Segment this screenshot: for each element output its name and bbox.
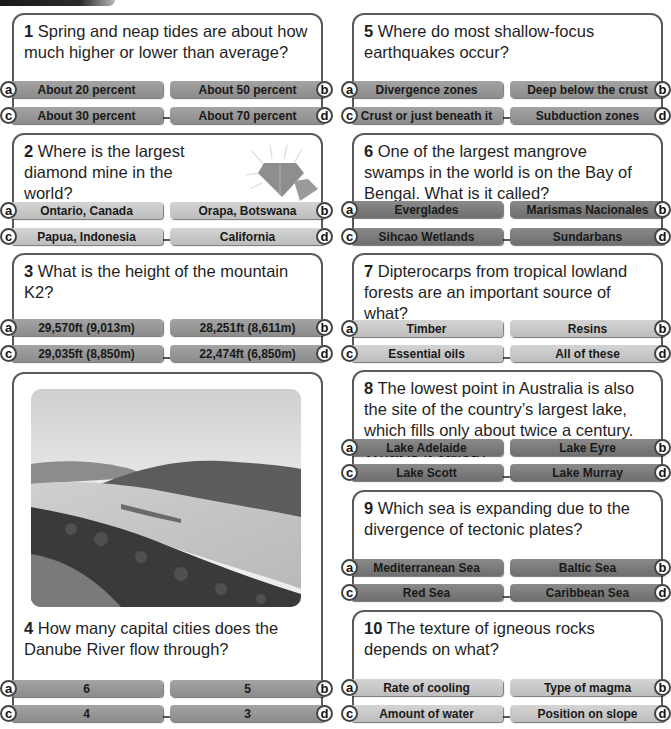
answer-option-2a[interactable]: Ontario, Canada: [10, 202, 163, 219]
letter-badge-b: b: [654, 201, 671, 218]
answer-option-9a[interactable]: Mediterranean Sea: [350, 559, 503, 576]
letter-badge-c: c: [341, 107, 358, 124]
question-number: 6: [364, 142, 373, 160]
answer-option-6b[interactable]: Marismas Nacionales: [510, 201, 665, 218]
letter-badge-b: b: [654, 679, 671, 696]
question-card-7: 7 Dipterocarps from tropical lowland for…: [352, 253, 663, 359]
letter-badge-d: d: [316, 107, 333, 124]
letter-badge-c: c: [0, 705, 17, 722]
letter-badge-c: c: [0, 345, 17, 362]
question-number: 7: [364, 262, 373, 280]
answer-option-7b[interactable]: Resins: [510, 320, 665, 337]
answer-option-6d[interactable]: Sundarbans: [510, 228, 665, 245]
answer-option-2b[interactable]: Orapa, Botswana: [170, 202, 325, 219]
answer-option-4b[interactable]: 5: [170, 680, 325, 697]
answer-option-8b[interactable]: Lake Eyre: [510, 439, 665, 456]
letter-badge-c: c: [0, 107, 17, 124]
answer-option-8a[interactable]: Lake Adelaide: [350, 439, 503, 456]
answer-option-1a[interactable]: About 20 percent: [10, 81, 163, 98]
letter-badge-a: a: [0, 202, 17, 219]
letter-badge-b: b: [654, 81, 671, 98]
answer-option-4c[interactable]: 4: [10, 705, 163, 722]
letter-badge-c: c: [341, 705, 358, 722]
letter-badge-a: a: [0, 81, 17, 98]
question-number: 2: [24, 142, 33, 160]
letter-badge-b: b: [316, 202, 333, 219]
answer-option-2c[interactable]: Papua, Indonesia: [10, 228, 163, 245]
question-text-10: 10 The texture of igneous rocks depends …: [364, 618, 649, 660]
question-text-6: 6 One of the largest mangrove swamps in …: [364, 141, 649, 204]
answer-option-5d[interactable]: Subduction zones: [510, 107, 665, 124]
answer-option-4d[interactable]: 3: [170, 705, 325, 722]
question-number: 1: [24, 22, 33, 40]
question-text-3: 3 What is the height of the mountain K2?: [24, 261, 309, 303]
letter-badge-a: a: [341, 559, 358, 576]
answer-option-1c[interactable]: About 30 percent: [10, 107, 163, 124]
answer-option-7d[interactable]: All of these: [510, 345, 665, 362]
question-card-3: 3 What is the height of the mountain K2?: [12, 253, 323, 359]
question-card-10: 10 The texture of igneous rocks depends …: [352, 610, 663, 718]
answer-option-10b[interactable]: Type of magma: [510, 679, 665, 696]
letter-badge-d: d: [654, 705, 671, 722]
answer-option-3b[interactable]: 28,251ft (8,611m): [170, 319, 325, 336]
letter-badge-a: a: [341, 320, 358, 337]
letter-badge-a: a: [0, 319, 17, 336]
answer-option-9d[interactable]: Caribbean Sea: [510, 584, 665, 601]
answer-option-6a[interactable]: Everglades: [350, 201, 503, 218]
answer-option-3c[interactable]: 29,035ft (8,850m): [10, 345, 163, 362]
question-card-2: 2 Where is the largest diamond mine in t…: [12, 133, 323, 241]
question-prompt: The texture of igneous rocks depends on …: [364, 619, 595, 658]
question-card-5: 5 Where do most shallow-focus earthquake…: [352, 13, 663, 119]
answer-option-9c[interactable]: Red Sea: [350, 584, 503, 601]
letter-badge-b: b: [316, 81, 333, 98]
answer-option-3a[interactable]: 29,570ft (9,013m): [10, 319, 163, 336]
question-number: 10: [364, 619, 382, 637]
river-landscape-image: [31, 389, 301, 607]
answer-option-1d[interactable]: About 70 percent: [170, 107, 325, 124]
question-prompt: Where do most shallow-focus earthquakes …: [364, 22, 594, 61]
letter-badge-d: d: [316, 705, 333, 722]
question-card-9: 9 Which sea is expanding due to the dive…: [352, 490, 663, 598]
answer-option-10a[interactable]: Rate of cooling: [350, 679, 503, 696]
answer-option-2d[interactable]: California: [170, 228, 325, 245]
answer-option-8d[interactable]: Lake Murray: [510, 464, 665, 481]
answer-option-1b[interactable]: About 50 percent: [170, 81, 325, 98]
answer-option-3d[interactable]: 22,474ft (6,850m): [170, 345, 325, 362]
question-prompt: Dipterocarps from tropical lowland fores…: [364, 262, 627, 322]
answer-option-5c[interactable]: Crust or just beneath it: [350, 107, 503, 124]
letter-badge-a: a: [341, 81, 358, 98]
question-number: 5: [364, 22, 373, 40]
letter-badge-c: c: [341, 228, 358, 245]
answer-option-7c[interactable]: Essential oils: [350, 345, 503, 362]
answer-option-7a[interactable]: Timber: [350, 320, 503, 337]
question-prompt: Spring and neap tides are about how much…: [24, 22, 307, 61]
river-valley-photo: [31, 389, 301, 607]
question-prompt: Which sea is expanding due to the diverg…: [364, 499, 630, 538]
letter-badge-c: c: [341, 345, 358, 362]
answer-option-5b[interactable]: Deep below the crust: [510, 81, 665, 98]
question-text-5: 5 Where do most shallow-focus earthquake…: [364, 21, 649, 63]
answer-option-8c[interactable]: Lake Scott: [350, 464, 503, 481]
question-number: 4: [24, 619, 33, 637]
answer-option-4a[interactable]: 6: [10, 680, 163, 697]
answer-option-10d[interactable]: Position on slope: [510, 705, 665, 722]
corner-header-tab: [0, 0, 115, 6]
question-text-1: 1 Spring and neap tides are about how mu…: [24, 21, 309, 63]
answer-option-6c[interactable]: Sihcao Wetlands: [350, 228, 503, 245]
answer-option-9b[interactable]: Baltic Sea: [510, 559, 665, 576]
answer-option-5a[interactable]: Divergence zones: [350, 81, 503, 98]
letter-badge-a: a: [341, 201, 358, 218]
letter-badge-d: d: [654, 464, 671, 481]
letter-badge-a: a: [341, 439, 358, 456]
letter-badge-d: d: [654, 584, 671, 601]
question-card-6: 6 One of the largest mangrove swamps in …: [352, 133, 663, 241]
question-prompt: What is the height of the mountain K2?: [24, 262, 288, 301]
question-card-8: 8 The lowest point in Australia is also …: [352, 370, 663, 478]
answer-option-10c[interactable]: Amount of water: [350, 705, 503, 722]
letter-badge-b: b: [654, 439, 671, 456]
letter-badge-b: b: [654, 320, 671, 337]
letter-badge-d: d: [654, 345, 671, 362]
letter-badge-d: d: [316, 228, 333, 245]
question-number: 8: [364, 379, 373, 397]
letter-badge-c: c: [341, 464, 358, 481]
